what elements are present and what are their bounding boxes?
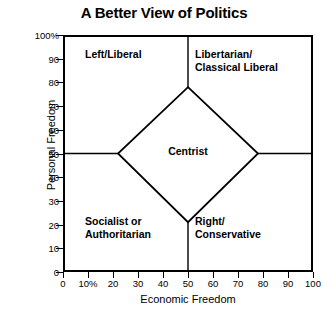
- y-tick-label: 30: [25, 195, 59, 206]
- plot-area: Left/Liberal Libertarian/ Classical Libe…: [63, 35, 313, 272]
- x-tick-label: 90: [283, 278, 294, 289]
- x-tick-label: 20: [108, 278, 119, 289]
- quadrant-label-top-right: Libertarian/ Classical Liberal: [195, 48, 278, 73]
- quadrant-label-bottom-left: Socialist or Authoritarian: [85, 215, 151, 240]
- y-tick-mark: [56, 201, 63, 202]
- y-tick-label: 10: [25, 243, 59, 254]
- x-tick-mark: [113, 272, 114, 278]
- chart-title: A Better View of Politics: [0, 4, 328, 21]
- x-tick-mark: [88, 272, 89, 278]
- y-tick-label: 0: [25, 267, 59, 278]
- x-tick-label: 80: [258, 278, 269, 289]
- x-tick-label: 0: [60, 278, 65, 289]
- y-tick-mark: [56, 106, 63, 107]
- y-tick-mark: [56, 248, 63, 249]
- y-tick-mark: [56, 59, 63, 60]
- x-tick-label: 100: [305, 278, 321, 289]
- x-tick-label: 50: [183, 278, 194, 289]
- x-tick-label: 40: [158, 278, 169, 289]
- y-tick-label: 90: [25, 53, 59, 64]
- centrist-label: Centrist: [63, 145, 313, 157]
- x-tick-mark: [138, 272, 139, 278]
- y-tick-mark: [56, 177, 63, 178]
- y-tick-mark: [56, 82, 63, 83]
- political-compass-chart: A Better View of Politics Left/Liberal L…: [0, 0, 328, 326]
- x-tick-label: 70: [233, 278, 244, 289]
- x-tick-label: 10%: [78, 278, 97, 289]
- x-tick-mark: [263, 272, 264, 278]
- x-tick-mark: [288, 272, 289, 278]
- y-tick-label: 20: [25, 219, 59, 230]
- y-tick-mark: [56, 130, 63, 131]
- x-axis-title: Economic Freedom: [63, 293, 313, 305]
- y-tick-mark: [56, 272, 63, 273]
- quadrant-label-bottom-right: Right/ Conservative: [195, 215, 261, 240]
- y-tick-mark: [56, 154, 63, 155]
- y-tick-label: 80: [25, 77, 59, 88]
- x-tick-mark: [213, 272, 214, 278]
- x-tick-mark: [238, 272, 239, 278]
- x-tick-mark: [163, 272, 164, 278]
- x-tick-label: 30: [133, 278, 144, 289]
- y-axis-title: Personal Freedom: [45, 100, 57, 191]
- x-tick-mark: [313, 272, 314, 278]
- y-tick-mark: [56, 35, 63, 36]
- x-tick-mark: [63, 272, 64, 278]
- x-tick-label: 60: [208, 278, 219, 289]
- y-tick-label: 100%: [25, 30, 59, 41]
- quadrant-label-top-left: Left/Liberal: [85, 48, 142, 61]
- x-tick-mark: [188, 272, 189, 278]
- y-tick-mark: [56, 225, 63, 226]
